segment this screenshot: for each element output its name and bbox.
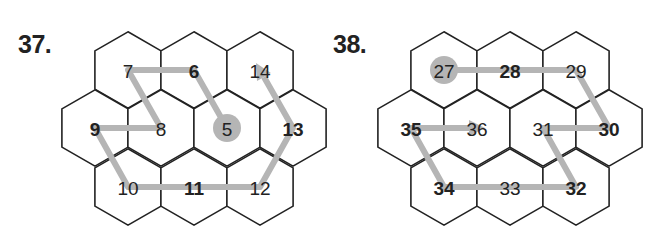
cell-number: 12 (249, 178, 270, 199)
cell-number: 36 (466, 119, 487, 140)
hex-puzzle-board: 761498513101112 27282935363130343332 (0, 0, 663, 249)
cell-number: 34 (433, 178, 455, 199)
puzzle-38-grid: 27282935363130343332 (378, 32, 642, 225)
cell-number: 33 (499, 178, 520, 199)
puzzle-37-grid: 761498513101112 (62, 32, 326, 225)
cell-number: 10 (117, 178, 138, 199)
cell-number: 6 (189, 61, 200, 82)
cell-number: 32 (565, 178, 586, 199)
cell-number: 14 (249, 61, 271, 82)
cell-number: 27 (433, 61, 454, 82)
cell-number: 9 (90, 119, 101, 140)
cell-number: 31 (532, 119, 553, 140)
cell-number: 7 (123, 61, 134, 82)
cell-number: 29 (565, 61, 586, 82)
cell-number: 13 (282, 119, 303, 140)
cell-number: 30 (598, 119, 619, 140)
cell-number: 35 (400, 119, 422, 140)
cell-number: 8 (156, 119, 167, 140)
cell-number: 11 (184, 178, 205, 199)
cell-number: 5 (222, 119, 233, 140)
cell-number: 28 (499, 61, 520, 82)
